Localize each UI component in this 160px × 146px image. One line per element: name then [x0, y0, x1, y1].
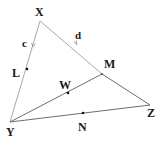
- label-c: c: [22, 37, 27, 49]
- label-n: N: [78, 120, 87, 134]
- label-z: Z: [147, 106, 155, 120]
- point-l: [26, 68, 29, 71]
- label-l: L: [12, 66, 20, 80]
- point-n: [82, 112, 85, 115]
- vector-d-arrow-icon: [74, 41, 77, 45]
- label-x: X: [35, 5, 44, 19]
- triangle-diagram: X c d L M W Y N Z: [0, 0, 160, 146]
- label-w: W: [59, 78, 71, 92]
- label-d: d: [75, 29, 81, 41]
- segment-mz: [102, 74, 150, 105]
- label-y: Y: [6, 125, 15, 139]
- segment-xm: [40, 21, 102, 74]
- segment-ym: [10, 74, 102, 122]
- label-m: M: [104, 57, 115, 71]
- point-m: [101, 73, 103, 75]
- point-w: [67, 92, 70, 95]
